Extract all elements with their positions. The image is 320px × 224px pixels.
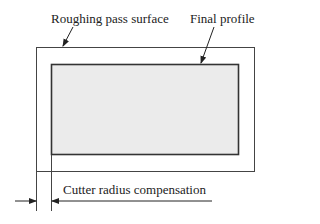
compensation-label: Cutter radius compensation: [63, 183, 206, 196]
roughing-leader-arrow: [63, 27, 73, 46]
final-profile-label: Final profile: [190, 12, 255, 25]
final-profile-rect: [52, 65, 239, 155]
roughing-label: Roughing pass surface: [51, 12, 169, 25]
final-leader-arrow: [201, 27, 214, 63]
